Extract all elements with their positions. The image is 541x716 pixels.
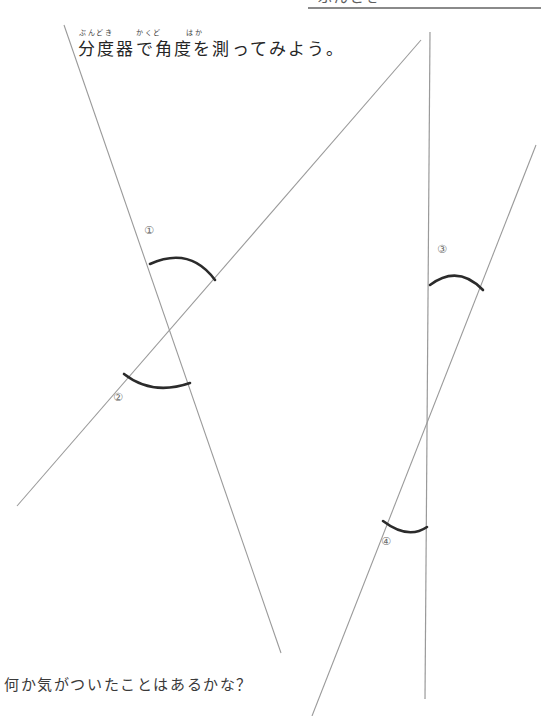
line-d-steep-ascending-right (312, 145, 536, 716)
figure-lines (17, 25, 536, 716)
line-a-descending-left (64, 25, 281, 653)
arc-angle-4 (383, 521, 427, 532)
angle-label-1: ① (144, 224, 154, 237)
angle-label-2: ② (113, 391, 123, 404)
arc-angle-1 (150, 258, 215, 280)
angle-label-3: ③ (437, 243, 447, 256)
footer-question: 何か気がついたことはあるかな？ (4, 675, 253, 695)
figure-arcs (124, 258, 483, 533)
worksheet-page: ぶんどき ぶんどき かくど はか 分度器で角度を測ってみよう。 ① ② ③ ④ … (0, 0, 541, 716)
angle-figure (0, 0, 541, 716)
arc-angle-2 (124, 374, 190, 388)
angle-label-4: ④ (381, 535, 391, 548)
line-b-ascending-left-to-right (17, 40, 421, 506)
line-c-vertical-right (425, 32, 430, 699)
arc-angle-3 (430, 276, 483, 290)
